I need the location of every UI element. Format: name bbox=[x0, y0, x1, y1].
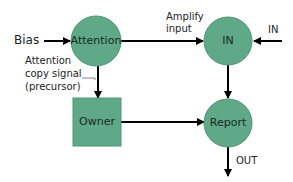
copy-signal-label-line3: (precursor) bbox=[25, 81, 81, 93]
owner-node-label: Owner bbox=[73, 115, 121, 128]
report-node-label: Report bbox=[204, 116, 252, 129]
copy-signal-leader bbox=[82, 78, 95, 80]
amplify-label-line2: input bbox=[166, 23, 192, 35]
out-label: OUT bbox=[236, 155, 257, 167]
bias-label: Bias bbox=[14, 34, 39, 46]
attention-node-label: Attention bbox=[66, 34, 126, 47]
in-external-label: IN bbox=[268, 24, 278, 36]
copy-signal-label-line2: copy signal bbox=[25, 68, 82, 80]
in-node-label: IN bbox=[208, 34, 248, 47]
copy-signal-label-line1: Attention bbox=[25, 55, 71, 67]
amplify-label-line1: Amplify bbox=[166, 11, 204, 23]
